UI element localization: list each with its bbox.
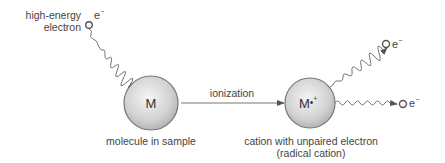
outgoing-wave-lower-arrow <box>335 101 397 105</box>
outgoing-electron-upper-symbol: e− <box>392 37 402 50</box>
outgoing-wave-upper-arrow <box>330 46 387 87</box>
outgoing-electron-upper-icon <box>383 41 390 48</box>
incoming-electron-symbol: e− <box>94 8 104 21</box>
outgoing-electron-lower-icon <box>400 101 407 108</box>
molecule-group: M molecule in sample <box>106 76 196 147</box>
electron-ionization-diagram: high-energy electron e− M molecule in sa… <box>0 0 445 163</box>
outgoing-electron-lower: e− <box>335 96 419 109</box>
ionization-process: ionization <box>181 87 284 103</box>
cation-caption-line2: (radical cation) <box>277 147 346 159</box>
molecule-symbol: M <box>146 96 157 111</box>
molecule-caption: molecule in sample <box>106 135 196 147</box>
outgoing-electron-lower-symbol: e− <box>409 96 419 109</box>
incoming-electron-icon <box>86 22 93 29</box>
ionization-label: ionization <box>210 87 255 99</box>
incoming-electron-label-line1: high-energy <box>26 9 82 21</box>
incoming-wave-arrow <box>89 29 135 89</box>
cation-caption-line1: cation with unpaired electron <box>244 135 378 147</box>
incoming-electron-group: high-energy electron e− <box>26 8 135 89</box>
outgoing-electron-upper: e− <box>330 37 402 87</box>
incoming-electron-label-line2: electron <box>44 21 82 33</box>
cation-group: M•+ cation with unpaired electron (radic… <box>244 78 378 159</box>
